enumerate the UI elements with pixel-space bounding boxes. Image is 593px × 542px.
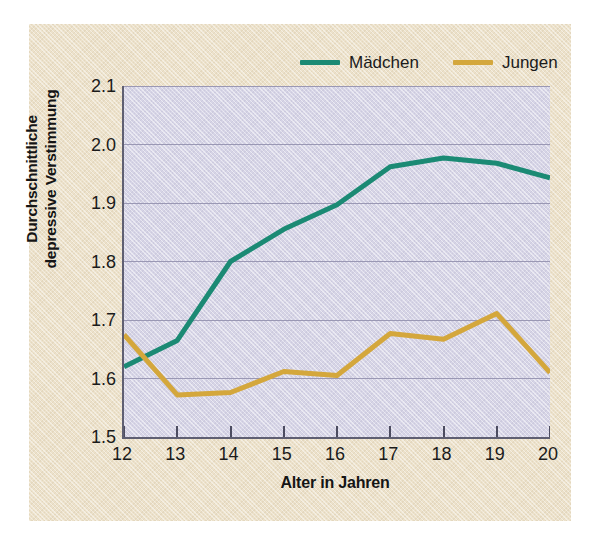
y-axis-tick-label: 1.9: [70, 193, 116, 214]
x-axis-tick-label: 18: [422, 444, 462, 465]
chart-legend: Mädchen Jungen: [300, 48, 548, 76]
x-axis-tick-label: 16: [315, 444, 355, 465]
y-axis-tick-label: 2.0: [70, 134, 116, 155]
figure-root: Mädchen Jungen Durchschnittliche depress…: [0, 0, 593, 542]
legend-entry-jungen: Jungen: [453, 54, 558, 71]
x-axis-tick-label: 15: [262, 444, 302, 465]
plot-area: [122, 86, 550, 439]
y-axis-tick-labels: 1.51.61.71.81.92.02.1: [62, 86, 116, 437]
y-axis-tick-label: 2.1: [70, 76, 116, 97]
legend-label-jungen: Jungen: [502, 54, 558, 71]
legend-swatch-jungen: [453, 60, 493, 65]
y-axis-title-line1: Durchschnittliche: [23, 29, 42, 329]
plot-svg: [124, 86, 550, 437]
x-axis-title: Alter in Jahren: [122, 474, 548, 492]
x-axis-tick-label: 20: [528, 444, 568, 465]
legend-label-maedchen: Mädchen: [349, 54, 419, 71]
legend-entry-maedchen: Mädchen: [300, 54, 419, 71]
x-axis-tick-label: 12: [102, 444, 142, 465]
x-axis-tick-label: 13: [155, 444, 195, 465]
legend-swatch-maedchen: [300, 60, 340, 65]
series-line-mdchen: [124, 158, 550, 367]
y-axis-title-line2: depressive Verstimmung: [42, 29, 61, 329]
x-axis-tick-label: 17: [368, 444, 408, 465]
x-axis-tick-labels: 121314151617181920: [122, 444, 548, 468]
y-axis-title: Durchschnittliche depressive Verstimmung: [23, 29, 61, 329]
y-axis-tick-label: 1.6: [70, 368, 116, 389]
x-axis-tick-label: 19: [475, 444, 515, 465]
x-axis-tick-label: 14: [209, 444, 249, 465]
y-axis-tick-label: 1.7: [70, 310, 116, 331]
y-axis-tick-label: 1.8: [70, 251, 116, 272]
